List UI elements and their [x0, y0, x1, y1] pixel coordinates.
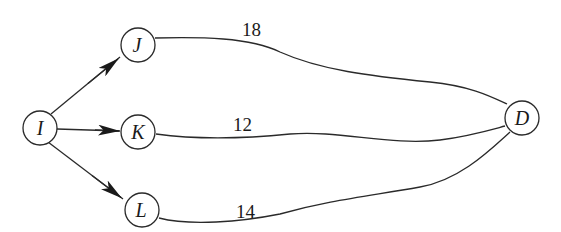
- edge-l-d: [159, 132, 510, 222]
- weight-label-k-d: 12: [233, 114, 252, 135]
- node-d: D: [505, 101, 539, 135]
- node-label-l: L: [134, 199, 146, 221]
- edge-i-l: [48, 142, 123, 199]
- edge-i-j: [51, 57, 120, 114]
- node-label-i: I: [36, 117, 45, 139]
- node-i: I: [23, 111, 57, 145]
- weight-label-l-d: 14: [236, 201, 256, 222]
- node-label-k: K: [130, 121, 146, 143]
- node-l: L: [125, 193, 159, 227]
- arrowhead-icon: [92, 176, 121, 198]
- network-diagram: 18 12 14 I J K L D: [0, 0, 561, 232]
- node-label-d: D: [514, 107, 530, 129]
- node-j: J: [121, 28, 155, 62]
- weight-label-j-d: 18: [242, 19, 261, 40]
- arrowhead-icon: [88, 59, 118, 84]
- node-k: K: [121, 115, 155, 149]
- edge-k-d: [156, 126, 505, 141]
- edge-j-d: [155, 38, 507, 104]
- edge-i-k: [57, 129, 120, 131]
- node-label-j: J: [133, 34, 143, 56]
